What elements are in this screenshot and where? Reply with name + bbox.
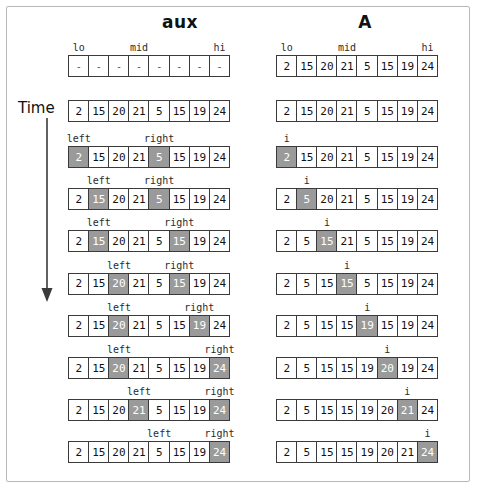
array-cell: 15 — [377, 146, 399, 168]
array-cell: 15 — [88, 357, 110, 379]
aux-step-row-pointer-band: leftright — [68, 343, 229, 356]
a-step-row-pointer-band: i — [276, 301, 437, 314]
array-cell: 15 — [88, 188, 110, 210]
array-cell: 21 — [128, 399, 150, 421]
array-cell: 2 — [68, 100, 90, 122]
aux-step-row-pointer-label: right — [164, 216, 194, 229]
aux-step-row-pointer-label: right — [144, 132, 174, 145]
aux-step-row-pointer-label: left — [87, 174, 111, 187]
array-cell: 21 — [128, 146, 150, 168]
array-cell: 5 — [296, 357, 318, 379]
array-cell: 19 — [397, 146, 419, 168]
array-cell: 19 — [397, 188, 419, 210]
array-cell: 19 — [356, 357, 378, 379]
aux-step-row-pointer-label: left — [67, 132, 91, 145]
array-cell: 24 — [417, 146, 439, 168]
array-cell: 21 — [397, 399, 419, 421]
array-cell: 5 — [356, 230, 378, 252]
array-cell: 2 — [68, 273, 90, 295]
a-step-row-pointer-label: i — [324, 216, 330, 229]
array-cell: 15 — [377, 230, 399, 252]
a-step-row-cells: 21520215151924 — [276, 146, 437, 168]
array-cell: 20 — [108, 188, 130, 210]
aux-step-row-pointer-label: right — [204, 343, 234, 356]
array-cell: 24 — [417, 399, 439, 421]
array-cell: 2 — [276, 273, 298, 295]
array-cell: 24 — [209, 315, 231, 337]
array-cell: 21 — [128, 100, 150, 122]
array-cell: 5 — [296, 441, 318, 463]
array-cell: 15 — [169, 230, 191, 252]
array-cell: 20 — [377, 399, 399, 421]
array-cell: 15 — [88, 399, 110, 421]
array-cell: 15 — [169, 441, 191, 463]
array-cell: 15 — [88, 100, 110, 122]
array-cell: 19 — [189, 273, 211, 295]
array-cell: 5 — [296, 188, 318, 210]
a-step-row: i25151519202124 — [276, 441, 437, 463]
aux-step-row-cells: 21520215151924 — [68, 273, 229, 295]
array-cell: 5 — [296, 399, 318, 421]
aux-step-row: leftright21520215151924 — [68, 273, 229, 295]
aux-step-row-pointer-band: leftright — [68, 174, 229, 187]
aux-step-row-pointer-band: leftright — [68, 132, 229, 145]
a-initial-row: 21520215151924 — [276, 100, 437, 122]
array-cell: 2 — [276, 188, 298, 210]
array-cell: 24 — [417, 188, 439, 210]
aux-step-row-pointer-band: leftright — [68, 427, 229, 440]
array-cell: 24 — [417, 230, 439, 252]
array-cell: 2 — [68, 357, 90, 379]
a-step-row: i21520215151924 — [276, 146, 437, 168]
array-cell: 15 — [377, 315, 399, 337]
array-cell: 20 — [108, 441, 130, 463]
time-arrow-icon — [36, 118, 60, 308]
aux-step-row: leftright21520215151924 — [68, 315, 229, 337]
array-cell: 20 — [108, 146, 130, 168]
aux-step-row-pointer-band: leftright — [68, 385, 229, 398]
array-cell: - — [128, 55, 150, 77]
aux-step-row-pointer-label: right — [204, 427, 234, 440]
aux-step-row-pointer-label: left — [127, 385, 151, 398]
array-cell: 2 — [276, 441, 298, 463]
array-cell: 19 — [189, 188, 211, 210]
array-cell: 15 — [336, 273, 358, 295]
array-cell: 24 — [209, 188, 231, 210]
a-step-row-pointer-label: i — [304, 174, 310, 187]
array-cell: 19 — [397, 315, 419, 337]
array-cell: 15 — [169, 273, 191, 295]
array-cell: 21 — [128, 273, 150, 295]
array-cell: 15 — [169, 357, 191, 379]
aux-step-row: leftright21520215151924 — [68, 399, 229, 421]
a-step-row-cells: 25151519202124 — [276, 441, 437, 463]
a-header-row-cells: 21520215151924 — [276, 55, 437, 77]
array-cell: 19 — [189, 315, 211, 337]
array-cell: 15 — [336, 441, 358, 463]
array-cell: 15 — [88, 230, 110, 252]
aux-step-row-cells: 21520215151924 — [68, 357, 229, 379]
a-step-row: i25151519151924 — [276, 315, 437, 337]
array-cell: 5 — [356, 188, 378, 210]
array-cell: 19 — [189, 399, 211, 421]
aux-step-row-pointer-label: right — [164, 259, 194, 272]
time-axis-label: Time — [18, 99, 55, 117]
array-cell: 15 — [316, 315, 338, 337]
a-step-row-pointer-band: i — [276, 216, 437, 229]
array-cell: 19 — [356, 315, 378, 337]
aux-step-row: leftright21520215151924 — [68, 441, 229, 463]
array-cell: 24 — [417, 441, 439, 463]
a-step-row-cells: 2515155151924 — [276, 273, 437, 295]
aux-step-row-cells: 21520215151924 — [68, 188, 229, 210]
array-cell: 2 — [276, 146, 298, 168]
a-step-row-pointer-band: i — [276, 174, 437, 187]
a-header-row-pointer-label: mid — [338, 41, 356, 54]
array-cell: 5 — [148, 399, 170, 421]
a-step-row-cells: 25151519151924 — [276, 315, 437, 337]
array-cell: 21 — [128, 188, 150, 210]
array-cell: 20 — [316, 100, 338, 122]
array-cell: 2 — [276, 55, 298, 77]
array-cell: 24 — [209, 230, 231, 252]
array-cell: 24 — [209, 273, 231, 295]
a-step-row-pointer-band: i — [276, 427, 437, 440]
array-cell: 21 — [128, 357, 150, 379]
array-cell: 19 — [356, 441, 378, 463]
